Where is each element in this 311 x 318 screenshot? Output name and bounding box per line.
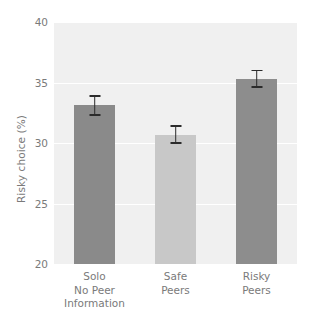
error-bar-cap-bottom bbox=[170, 142, 181, 144]
x-axis-tick-label-line: Information bbox=[64, 297, 125, 311]
bar bbox=[236, 79, 277, 264]
error-bar-line bbox=[94, 95, 96, 116]
gridline bbox=[54, 22, 297, 23]
x-axis-tick-label-line: Risky bbox=[242, 270, 271, 284]
y-axis-tick-label: 30 bbox=[8, 137, 54, 149]
bar-chart-figure: Risky choice (%) 2025303540 SoloNo PeerI… bbox=[0, 0, 311, 318]
error-bar-cap-top bbox=[170, 125, 181, 127]
bar bbox=[74, 105, 115, 264]
x-axis-tick-label-line: Peers bbox=[161, 284, 190, 298]
error-bar bbox=[87, 95, 103, 116]
x-axis-tick-label: RiskyPeers bbox=[242, 270, 271, 297]
x-axis-tick-label-line: Safe bbox=[161, 270, 190, 284]
y-axis-tick-label: 25 bbox=[8, 198, 54, 210]
error-bar-cap-bottom bbox=[89, 114, 100, 116]
plot-area bbox=[54, 22, 297, 264]
error-bar-cap-top bbox=[251, 70, 262, 72]
x-axis-tick-label-line: No Peer bbox=[64, 284, 125, 298]
x-axis-tick-label: SafePeers bbox=[161, 270, 190, 297]
error-bar-line bbox=[256, 70, 258, 88]
error-bar bbox=[249, 70, 265, 88]
y-axis-tick-label: 35 bbox=[8, 77, 54, 89]
error-bar-cap-bottom bbox=[251, 86, 262, 88]
error-bar-cap-top bbox=[89, 95, 100, 97]
error-bar bbox=[168, 125, 184, 143]
y-axis-tick-label: 40 bbox=[8, 16, 54, 28]
error-bar-line bbox=[175, 125, 177, 143]
x-axis-tick-label-line: Solo bbox=[64, 270, 125, 284]
y-axis-tick-label: 20 bbox=[8, 258, 54, 270]
y-axis-tick-labels: 2025303540 bbox=[0, 0, 54, 318]
x-axis-tick-label-line: Peers bbox=[242, 284, 271, 298]
bar bbox=[155, 135, 196, 264]
x-axis-tick-label: SoloNo PeerInformation bbox=[64, 270, 125, 311]
